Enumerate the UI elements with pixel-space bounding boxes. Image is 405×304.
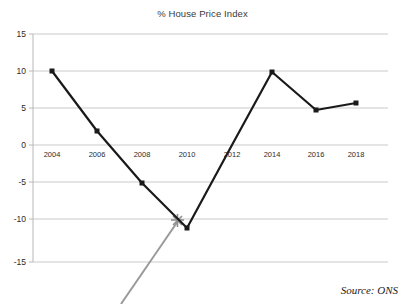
x-axis-label-2012: 2012 [212, 150, 252, 159]
x-axis-label-2014: 2014 [252, 150, 292, 159]
data-point-2010 [185, 226, 190, 231]
x-axis-label-2006: 2006 [77, 150, 117, 159]
x-axis-label-2018: 2018 [336, 150, 376, 159]
y-axis-label-minus15: -15 [0, 257, 26, 267]
y-tick-marks [29, 34, 33, 262]
y-axis-label-minus5: -5 [0, 177, 26, 187]
gridlines [33, 34, 388, 262]
chart-figure: % House Price Index [0, 0, 405, 304]
y-axis-label-5: 5 [0, 103, 26, 113]
pointer-star-marker [171, 214, 184, 227]
y-axis-label-minus10: -10 [0, 214, 26, 224]
data-point-2016 [314, 108, 319, 113]
x-axis-label-2016: 2016 [296, 150, 336, 159]
data-point-2014 [270, 70, 275, 75]
y-axis-label-15: 15 [0, 29, 26, 39]
y-axis-label-0: 0 [0, 140, 26, 150]
data-point-2006 [95, 129, 100, 134]
x-axis-label-2004: 2004 [32, 150, 72, 159]
source-attribution: Source: ONS [341, 284, 398, 296]
data-point-2008 [140, 181, 145, 186]
x-axis-label-2010: 2010 [167, 150, 207, 159]
y-axis-label-10: 10 [0, 66, 26, 76]
data-point-2004 [50, 69, 55, 74]
x-axis-label-2008: 2008 [122, 150, 162, 159]
data-point-2018 [354, 101, 359, 106]
